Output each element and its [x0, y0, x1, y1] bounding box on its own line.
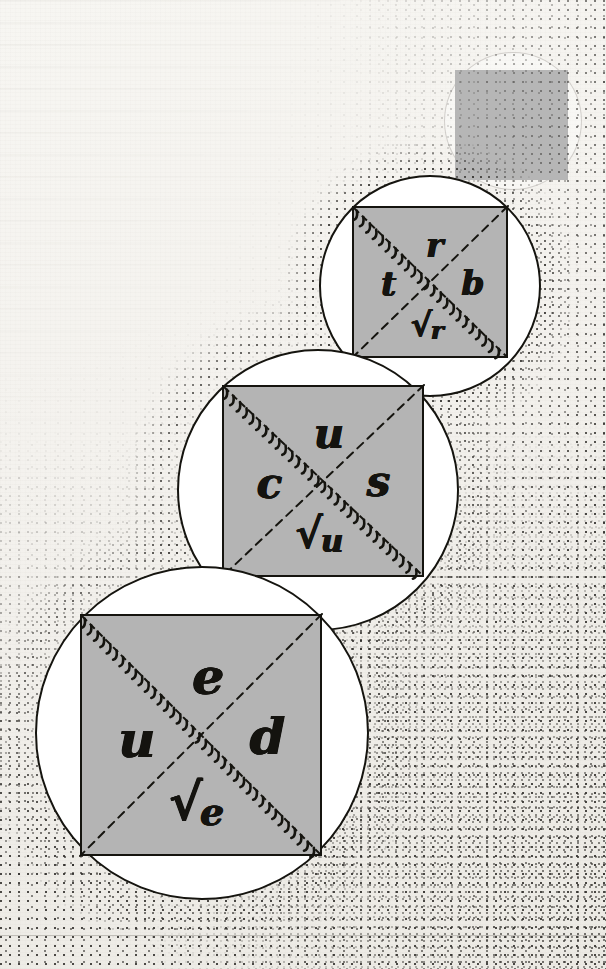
label-left: u	[118, 713, 155, 764]
label-top: u	[314, 413, 345, 455]
label-left: t	[381, 268, 396, 301]
circle-square-unit-bottom: eud√e	[35, 566, 369, 900]
label-right: b	[461, 266, 484, 299]
diagram-canvas: rtb√r ucs√u eud√e	[0, 0, 606, 969]
plain-grey-square	[455, 70, 568, 180]
label-bottom-radical: √r	[411, 307, 445, 340]
label-top: e	[192, 650, 224, 701]
label-top: r	[426, 228, 443, 261]
label-left: c	[257, 463, 283, 505]
label-right: s	[367, 461, 391, 503]
label-right: d	[250, 711, 286, 762]
label-bottom-radical: √e	[169, 776, 226, 827]
square-diagonals	[35, 566, 369, 900]
page-rule-line	[0, 935, 606, 936]
label-bottom-radical: √u	[295, 513, 344, 555]
